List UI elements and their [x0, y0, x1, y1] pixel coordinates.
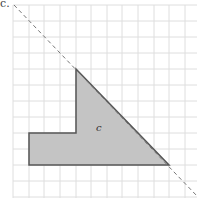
grid-figure: c. c [0, 0, 197, 198]
shape-label: c [96, 122, 102, 133]
part-label: c. [0, 0, 10, 10]
grid-diagram [0, 0, 197, 198]
